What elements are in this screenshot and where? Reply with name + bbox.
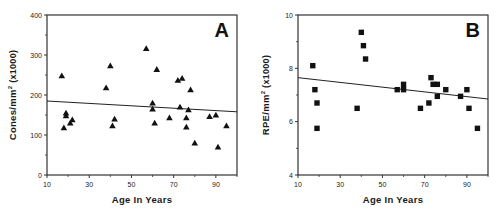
data-points	[58, 45, 229, 149]
square-marker	[428, 75, 433, 80]
y-axis-title-suffix: (x1000)	[8, 50, 18, 86]
triangle-marker	[191, 140, 198, 146]
data-points	[310, 30, 480, 131]
square-marker	[458, 94, 463, 99]
square-marker	[418, 106, 423, 111]
x-tick-label: 70	[170, 181, 178, 188]
square-marker	[363, 56, 368, 61]
panel-letter: A	[215, 19, 229, 41]
square-marker	[395, 87, 400, 92]
triangle-marker	[107, 63, 114, 69]
y-tick-label: 0	[38, 172, 42, 179]
y-axis-title: Cones/mm2 (x1000)	[7, 50, 18, 141]
square-marker	[314, 100, 319, 105]
square-marker	[401, 87, 406, 92]
y-tick-label: 300	[30, 52, 42, 59]
square-marker	[435, 82, 440, 87]
y-tick-label: 400	[30, 12, 42, 19]
triangle-marker	[109, 123, 116, 129]
x-tick-label: 30	[336, 181, 344, 188]
y-tick-label: 200	[30, 92, 42, 99]
triangle-marker	[111, 116, 118, 122]
triangle-marker	[166, 115, 173, 121]
y-axis-title: RPE/mm2 (x1000)	[260, 55, 271, 135]
y-tick-label: 4	[289, 172, 293, 179]
triangle-marker	[151, 120, 158, 126]
x-axis-title: Age In Years	[363, 194, 423, 205]
x-tick-label: 30	[85, 181, 93, 188]
square-marker	[310, 63, 315, 68]
x-tick-label: 90	[463, 181, 471, 188]
triangle-marker	[183, 124, 190, 130]
square-marker	[443, 87, 448, 92]
square-marker	[361, 43, 366, 48]
y-tick-label: 6	[289, 118, 293, 125]
triangle-marker	[149, 100, 156, 106]
x-tick-label: 10	[294, 181, 302, 188]
x-tick-label: 50	[379, 181, 387, 188]
square-marker	[464, 87, 469, 92]
square-marker	[314, 126, 319, 131]
square-marker	[475, 126, 480, 131]
y-axis-title-suffix: (x1000)	[261, 55, 271, 91]
triangle-marker	[103, 85, 110, 91]
triangle-marker	[187, 87, 194, 93]
y-tick-label: 8	[289, 65, 293, 72]
square-marker	[354, 106, 359, 111]
triangle-marker	[213, 112, 220, 118]
triangle-marker	[223, 123, 230, 129]
triangle-marker	[215, 144, 222, 150]
triangle-marker	[206, 113, 213, 119]
rpe-scatter-plot: 468101030507090Age In YearsRPE/mm2 (x100…	[251, 0, 502, 211]
y-tick-label: 10	[285, 12, 293, 19]
square-marker	[435, 94, 440, 99]
x-tick-label: 90	[212, 181, 220, 188]
triangle-marker	[69, 117, 76, 123]
triangle-marker	[153, 66, 160, 72]
chart-panel-a: 01002003004001030507090Age In YearsCones…	[0, 0, 250, 211]
triangle-marker	[179, 75, 186, 81]
x-tick-label: 70	[421, 181, 429, 188]
triangle-marker	[183, 115, 190, 121]
square-marker	[312, 87, 317, 92]
x-tick-label: 50	[128, 181, 136, 188]
triangle-marker	[177, 104, 184, 110]
panel-letter: B	[466, 19, 480, 41]
triangle-marker	[143, 45, 150, 51]
square-marker	[401, 82, 406, 87]
triangle-marker	[58, 73, 65, 79]
y-axis-title-main: RPE/mm	[260, 94, 271, 135]
plot-frame	[47, 15, 237, 175]
triangle-marker	[61, 125, 68, 131]
chart-panel-b: 468101030507090Age In YearsRPE/mm2 (x100…	[251, 0, 502, 211]
square-marker	[359, 30, 364, 35]
regression-line	[47, 101, 237, 112]
y-tick-label: 100	[30, 132, 42, 139]
cones-scatter-plot: 01002003004001030507090Age In YearsCones…	[0, 0, 250, 211]
x-axis-title: Age In Years	[112, 194, 172, 205]
square-marker	[466, 106, 471, 111]
x-tick-label: 10	[43, 181, 51, 188]
y-axis-title-main: Cones/mm	[7, 89, 18, 140]
square-marker	[426, 100, 431, 105]
